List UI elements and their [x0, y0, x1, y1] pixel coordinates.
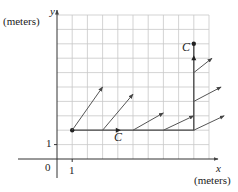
y-tick-1-label: 1	[46, 138, 52, 149]
vector-arrow	[194, 87, 221, 101]
grid	[57, 15, 209, 159]
path-label-c-right: C	[182, 41, 190, 53]
x-axis-unit: (meters)	[194, 175, 231, 186]
path-end-dot	[192, 42, 196, 46]
path-direction-arrow-icon	[191, 55, 196, 60]
vector-field-diagram	[0, 0, 238, 192]
y-axis-unit: (meters)	[3, 16, 40, 27]
path-label-c-bottom: C	[114, 131, 122, 143]
y-axis-label: y	[50, 6, 55, 17]
x-axis-label: x	[216, 163, 221, 174]
origin-label: 0	[45, 162, 51, 173]
x-tick-1-label: 1	[69, 165, 75, 176]
